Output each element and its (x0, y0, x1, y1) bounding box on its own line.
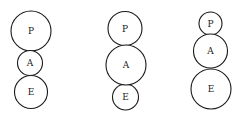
label-a: A (122, 60, 130, 70)
diagram-3: P A E (191, 12, 231, 109)
label-p: P (28, 26, 34, 36)
label-e: E (28, 87, 35, 97)
label-a: A (206, 46, 214, 56)
label-e: E (122, 92, 129, 102)
diagram-1: P A E (11, 11, 51, 109)
pae-diagram-canvas: P A E P A E P A E (0, 0, 244, 116)
label-e: E (208, 84, 215, 94)
label-p: P (122, 24, 128, 34)
label-p: P (207, 19, 213, 29)
diagram-2: P A E (106, 12, 146, 111)
label-a: A (26, 58, 34, 68)
